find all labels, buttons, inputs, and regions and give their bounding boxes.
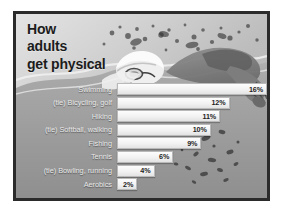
bar-value: 11% (202, 112, 219, 121)
table-row: (tie) Softball, walking 10% (16, 124, 267, 136)
bar-track: 11% (117, 110, 267, 122)
bar-bowling-running: 4% (117, 165, 155, 177)
bar-chart: Swimming 16% (tie) Bicycling, golf 12% H… (16, 83, 267, 192)
bar-track: 6% (117, 151, 267, 163)
page-title: How adults get physical (27, 21, 106, 73)
bar-value: 6% (159, 152, 172, 161)
bar-label: (tie) Bicycling, golf (16, 98, 117, 107)
bar-label: (tie) Softball, walking (16, 125, 117, 134)
table-row: Tennis 6% (16, 151, 267, 163)
bar-label: Aerobics (16, 180, 117, 189)
bar-bicycling-golf: 12% (117, 97, 230, 109)
bar-track: 12% (117, 97, 267, 109)
bar-track: 4% (117, 165, 267, 177)
bar-aerobics: 2% (117, 178, 137, 190)
bar-hiking: 11% (117, 110, 220, 122)
title-line-1: How (27, 21, 106, 38)
infographic-chart: How adults get physical Swimming 16% (ti… (0, 0, 285, 216)
bar-value: 9% (187, 139, 200, 148)
bar-label: Fishing (16, 139, 117, 148)
bar-swimming: 16% (117, 83, 267, 95)
bar-fishing: 9% (117, 137, 201, 149)
bar-label: Swimming (16, 85, 117, 94)
title-line-3: get physical (27, 56, 106, 73)
table-row: (tie) Bicycling, golf 12% (16, 97, 267, 109)
table-row: Hiking 11% (16, 110, 267, 122)
title-line-2: adults (27, 38, 106, 55)
bar-tennis: 6% (117, 151, 173, 163)
bar-value: 4% (140, 166, 153, 175)
chart-frame: How adults get physical Swimming 16% (ti… (13, 11, 270, 201)
table-row: (tie) Bowling, running 4% (16, 165, 267, 177)
bar-value: 16% (249, 85, 266, 94)
table-row: Swimming 16% (16, 83, 267, 95)
bar-value: 12% (211, 98, 228, 107)
table-row: Fishing 9% (16, 137, 267, 149)
bar-value: 2% (123, 180, 136, 189)
bar-value: 10% (193, 125, 210, 134)
bar-track: 2% (117, 178, 267, 190)
bar-track: 16% (117, 83, 267, 95)
table-row: Aerobics 2% (16, 178, 267, 190)
bar-softball-walking: 10% (117, 124, 211, 136)
bar-track: 9% (117, 137, 267, 149)
bar-label: Hiking (16, 112, 117, 121)
bar-track: 10% (117, 124, 267, 136)
bar-label: Tennis (16, 152, 117, 161)
bar-label: (tie) Bowling, running (16, 166, 117, 175)
